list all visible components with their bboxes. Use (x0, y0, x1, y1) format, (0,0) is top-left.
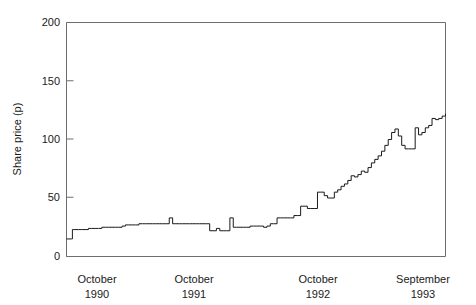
y-axis-title: Share price (p) (11, 103, 23, 176)
y-tick-label-100: 100 (42, 133, 60, 145)
x-label-2-year: 1991 (182, 288, 206, 300)
x-label-4-month: September (396, 273, 450, 285)
y-tick-label-200: 200 (42, 16, 60, 28)
x-label-3-month: October (298, 273, 337, 285)
y-tick-label-50: 50 (48, 191, 60, 203)
x-label-1-year: 1990 (85, 288, 109, 300)
x-label-3-year: 1992 (306, 288, 330, 300)
x-label-4-year: 1993 (411, 288, 435, 300)
chart-container: 200 150 100 50 0 Share price (p) October… (0, 0, 476, 305)
y-tick-label-0: 0 (54, 250, 60, 262)
chart-background (0, 0, 476, 305)
x-label-1-month: October (77, 273, 116, 285)
y-tick-label-150: 150 (42, 75, 60, 87)
share-price-line-chart: 200 150 100 50 0 Share price (p) October… (0, 0, 476, 305)
x-label-2-month: October (174, 273, 213, 285)
